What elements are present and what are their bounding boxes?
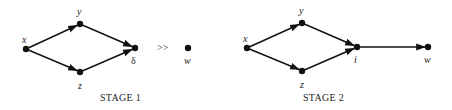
edge-x-z <box>247 48 299 70</box>
node-w <box>185 45 191 51</box>
node-x <box>244 45 250 51</box>
label-delta: δ <box>131 55 136 66</box>
node-z <box>299 68 305 74</box>
caption-stage-1: STAGE 1 <box>100 92 141 103</box>
edge-y-delta <box>80 24 132 47</box>
stage-2: x y z i w STAGE 2 <box>242 5 431 103</box>
edge-y-i <box>302 23 354 46</box>
label-w: w <box>184 55 191 66</box>
edge-x-y <box>247 25 299 49</box>
transition-symbol: >> <box>157 42 169 53</box>
node-y <box>77 21 83 27</box>
label-y: y <box>298 5 304 16</box>
edge-z-i <box>302 49 354 72</box>
caption-stage-2: STAGE 2 <box>303 92 344 103</box>
node-x <box>23 46 29 52</box>
node-w <box>425 44 431 50</box>
label-y: y <box>76 6 82 17</box>
label-x: x <box>21 34 27 45</box>
two-stage-graph-diagram: x y z δ w >> STAGE 1 x y z i w STAGE 2 <box>0 0 452 110</box>
label-w: w <box>424 54 431 65</box>
label-x: x <box>242 33 248 44</box>
node-delta <box>132 45 138 51</box>
node-z <box>77 69 83 75</box>
label-i: i <box>354 54 357 65</box>
edge-z-delta <box>80 50 132 73</box>
node-y <box>299 20 305 26</box>
edge-x-y <box>26 26 77 50</box>
edge-x-z <box>26 49 77 71</box>
label-z: z <box>77 80 82 91</box>
stage-1: x y z δ w >> STAGE 1 <box>21 6 191 103</box>
label-z: z <box>299 79 304 90</box>
node-i <box>354 44 360 50</box>
